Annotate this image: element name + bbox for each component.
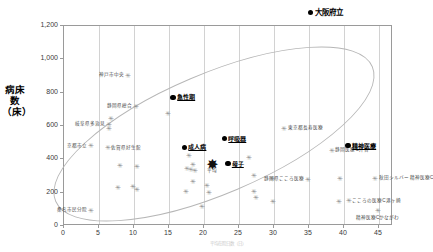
- data-point: [106, 126, 111, 131]
- data-point: [204, 183, 209, 188]
- data-point-label: 静岡県こころ医療: [264, 176, 304, 182]
- data-point: [199, 204, 204, 209]
- y-axis-title-line-2: （床）: [2, 106, 28, 117]
- x-tick-label: 45: [368, 229, 388, 236]
- data-point-label-osaka: 急性期: [177, 94, 195, 100]
- data-point: [329, 148, 334, 153]
- data-point: [134, 187, 139, 192]
- data-point: [305, 177, 310, 182]
- data-point: [165, 111, 170, 116]
- data-point: [88, 208, 93, 213]
- data-point-osaka: [222, 136, 228, 142]
- data-point-label: 静岡県総合: [107, 103, 132, 109]
- data-point: [192, 168, 197, 173]
- data-point: [336, 199, 341, 204]
- x-tick-label: 25: [228, 229, 248, 236]
- x-tick-mark: [378, 225, 379, 228]
- y-tick-label: 1,000: [40, 54, 58, 61]
- x-tick-label: 20: [193, 229, 213, 236]
- x-tick-label: 0: [53, 229, 73, 236]
- data-point-label: 平均: [207, 168, 217, 174]
- y-tick-label: 800: [46, 88, 58, 95]
- x-axis-title: 平均在院日数（日）: [63, 240, 392, 246]
- data-point: [183, 189, 188, 194]
- x-tick-label: 35: [298, 229, 318, 236]
- y-tick-mark: [60, 125, 63, 126]
- data-point-label: 京都市立: [67, 143, 87, 149]
- legend-marker-icon: [308, 10, 313, 15]
- legend-label: 大阪府立: [315, 8, 343, 17]
- data-point: [251, 189, 256, 194]
- data-point-osaka: [170, 95, 176, 101]
- x-tick-mark: [343, 225, 344, 228]
- data-point: [186, 153, 191, 158]
- x-tick-mark: [133, 225, 134, 228]
- data-point-label-osaka: 成人病: [188, 144, 206, 150]
- data-point: [108, 116, 113, 121]
- data-point: [346, 198, 351, 203]
- data-point-label-osaka: 精神医療: [352, 143, 376, 149]
- y-tick-mark: [60, 92, 63, 93]
- y-tick-mark: [60, 158, 63, 159]
- y-tick-label: 200: [46, 188, 58, 195]
- x-tick-mark: [238, 225, 239, 228]
- x-tick-mark: [203, 225, 204, 228]
- data-point: [117, 163, 122, 168]
- x-tick-mark: [168, 225, 169, 228]
- data-point-label-osaka: 呼吸器: [228, 136, 246, 142]
- data-point: [375, 208, 380, 213]
- data-point: [188, 167, 193, 172]
- data-point: [115, 185, 120, 190]
- x-tick-label: 5: [88, 229, 108, 236]
- data-point: [125, 73, 130, 78]
- data-point-label: 桑名市民分院: [57, 207, 87, 213]
- data-point: [190, 179, 195, 184]
- data-point: [251, 173, 256, 178]
- y-tick-label: 1,200: [40, 21, 58, 28]
- x-tick-label: 40: [333, 229, 353, 236]
- x-tick-mark: [98, 225, 99, 228]
- y-tick-mark: [60, 58, 63, 59]
- data-point: [206, 190, 211, 195]
- x-tick-label: 30: [263, 229, 283, 236]
- data-point: [270, 199, 275, 204]
- x-tick-mark: [63, 225, 64, 228]
- data-point: [281, 126, 286, 131]
- data-point-label: こころの医療C港ヶ崎: [352, 198, 400, 204]
- data-point-label: 東京都長寿医療: [288, 125, 323, 131]
- y-axis-title: 病床数 （床）: [2, 84, 28, 117]
- data-point: [88, 143, 93, 148]
- data-point-label: 秋田シルバー 精神医療C: [379, 175, 433, 181]
- data-point: [190, 162, 195, 167]
- data-point-label: 精神医療Cかながわ: [356, 215, 399, 221]
- x-tick-label: 15: [158, 229, 178, 236]
- y-tick-label: 600: [46, 121, 58, 128]
- chart-legend: 大阪府立: [308, 8, 343, 17]
- data-point: [337, 176, 342, 181]
- y-tick-label: 0: [54, 221, 58, 228]
- y-tick-label: 400: [46, 154, 58, 161]
- data-point: [133, 104, 138, 109]
- data-point: [105, 145, 110, 150]
- y-tick-mark: [60, 192, 63, 193]
- data-points: 神戸市中央静岡県総合岐阜県多治見京都市立佐賀県好生館東京都長寿医療静岡医療C芹香…: [64, 26, 391, 224]
- x-tick-mark: [273, 225, 274, 228]
- data-point: [246, 155, 251, 160]
- data-point-label-osaka: 母子: [232, 161, 244, 167]
- data-point-label: 岐阜県多治見: [75, 121, 105, 127]
- y-tick-mark: [60, 25, 63, 26]
- data-point: [184, 166, 189, 171]
- data-point-label: 佐賀県好生館: [111, 145, 141, 151]
- x-tick-mark: [308, 225, 309, 228]
- data-point-osaka: [225, 161, 231, 167]
- y-axis-title-line-1: 病床数: [2, 84, 28, 106]
- data-point: [106, 122, 111, 127]
- data-point: [130, 184, 135, 189]
- plot-area: 神戸市中央静岡県総合岐阜県多治見京都市立佐賀県好生館東京都長寿医療静岡医療C芹香…: [63, 25, 392, 225]
- data-point-osaka: [182, 145, 188, 151]
- x-tick-label: 10: [123, 229, 143, 236]
- data-point: [134, 164, 139, 169]
- data-point: [372, 176, 377, 181]
- data-point: [253, 195, 258, 200]
